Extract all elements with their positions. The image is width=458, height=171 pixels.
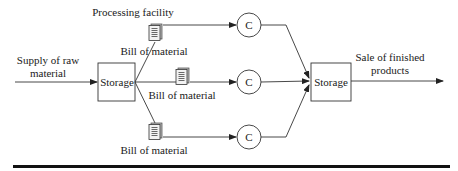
bottom-rule	[13, 165, 450, 168]
output-label-line1: Sale of finished	[355, 51, 425, 63]
document-icon	[176, 68, 189, 85]
storage-left: Storage	[98, 63, 135, 101]
input-label-line1: Supply of raw	[17, 54, 79, 66]
processing-facility-label: Processing facility	[92, 6, 174, 18]
component-node-label: C	[245, 76, 252, 88]
bill-of-material-label: Bill of material	[148, 89, 215, 101]
component-node-label: C	[245, 131, 252, 143]
storage-right-label: Storage	[314, 76, 348, 88]
storage-right: Storage	[311, 63, 351, 101]
merge-arrow	[261, 25, 309, 78]
merge-arrow	[261, 81, 309, 82]
merge-arrow	[261, 85, 309, 137]
component-node-label: C	[245, 19, 252, 31]
output-flow: Sale of finished products	[351, 51, 443, 81]
storage-left-label: Storage	[100, 76, 134, 88]
input-label-line2: material	[30, 67, 66, 79]
bill-of-material-label: Bill of material	[120, 45, 187, 57]
branch-middle: Bill of material C	[148, 68, 309, 101]
input-flow: Supply of raw material	[15, 54, 97, 82]
bill-of-material-label: Bill of material	[120, 144, 187, 156]
document-icon	[149, 24, 162, 41]
supply-chain-diagram: Supply of raw material Storage Processin…	[0, 0, 458, 171]
output-label-line2: products	[371, 64, 409, 76]
document-icon	[149, 123, 162, 140]
branch-top: Bill of material C	[120, 13, 309, 78]
